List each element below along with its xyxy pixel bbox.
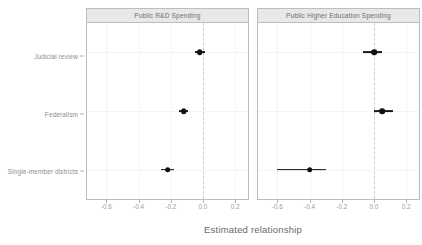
x-axis-tick-mark: [171, 199, 172, 203]
x-axis-tick-label: -0.4: [133, 203, 144, 210]
x-axis-tick-label: -0.6: [272, 203, 283, 210]
estimate-point: [181, 108, 187, 114]
estimate-point: [379, 108, 385, 114]
panel-title-strip: Public R&D Spending: [86, 8, 249, 22]
x-axis-tick-mark: [139, 199, 140, 203]
zero-reference-line: [203, 23, 204, 199]
x-axis-tick-mark: [235, 199, 236, 203]
estimate-point: [197, 50, 203, 56]
x-axis-tick-label: 0.2: [231, 203, 240, 210]
horizontal-gridline: [258, 111, 419, 112]
chart-panel: Public R&D Spending-0.6-0.4-0.20.00.2: [86, 8, 249, 200]
panel-title-label: Public Higher Education Spending: [286, 12, 391, 19]
plot-area: -0.6-0.4-0.20.00.2: [86, 22, 249, 200]
x-axis: -0.6-0.4-0.20.00.2: [258, 199, 419, 217]
x-axis-tick-mark: [310, 199, 311, 203]
x-axis-tick-label: -0.4: [304, 203, 315, 210]
x-axis-tick-label: 0.2: [402, 203, 411, 210]
panel-title-label: Public R&D Spending: [134, 12, 200, 19]
x-axis-tick-mark: [203, 199, 204, 203]
x-axis-tick-label: -0.2: [165, 203, 176, 210]
horizontal-gridline: [258, 52, 419, 53]
estimate-point: [371, 50, 377, 56]
estimate-point: [165, 167, 171, 173]
x-axis-tick-mark: [277, 199, 278, 203]
confidence-interval-bar: [277, 169, 325, 171]
y-axis-tick-mark: [80, 171, 84, 172]
horizontal-gridline: [87, 52, 248, 53]
x-axis-title: Estimated relationship: [86, 224, 420, 235]
x-axis: -0.6-0.4-0.20.00.2: [87, 199, 248, 217]
y-axis-tick-label: Federalism: [45, 110, 78, 117]
panel-title-strip: Public Higher Education Spending: [257, 8, 420, 22]
estimate-point: [307, 167, 313, 173]
y-axis-tick-label: Single-member districts: [8, 168, 78, 175]
x-axis-tick-mark: [406, 199, 407, 203]
forest-plot-figure: Judicial reviewFederalismSingle-member d…: [0, 0, 422, 245]
x-axis-tick-label: 0.0: [199, 203, 208, 210]
x-axis-tick-mark: [342, 199, 343, 203]
panel-grid: Public R&D Spending-0.6-0.4-0.20.00.2Pub…: [86, 8, 420, 200]
x-axis-tick-mark: [374, 199, 375, 203]
x-axis-tick-label: -0.6: [101, 203, 112, 210]
x-axis-tick-label: 0.0: [370, 203, 379, 210]
x-axis-tick-mark: [106, 199, 107, 203]
x-axis-tick-label: -0.2: [336, 203, 347, 210]
y-axis-tick-mark: [80, 113, 84, 114]
y-axis-tick-mark: [80, 55, 84, 56]
y-axis-tick-label: Judicial review: [34, 52, 78, 59]
chart-panel: Public Higher Education Spending-0.6-0.4…: [257, 8, 420, 200]
horizontal-gridline: [87, 111, 248, 112]
y-axis-label-group: Judicial reviewFederalismSingle-member d…: [0, 27, 86, 200]
plot-area: -0.6-0.4-0.20.00.2: [257, 22, 420, 200]
